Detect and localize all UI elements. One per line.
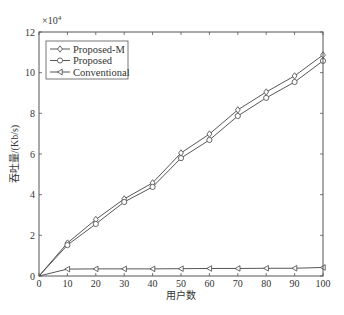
y-axis-label: 吞吐量/(Kb/s)	[9, 125, 21, 183]
x-tick-label: 50	[176, 278, 186, 289]
circle-marker-icon	[292, 79, 297, 84]
x-tick-label: 0	[37, 278, 42, 289]
y-tick-label: 12	[25, 27, 35, 38]
circle-marker-icon	[65, 242, 70, 247]
y-tick-labels: 024681012	[25, 27, 35, 282]
circle-legend-icon	[57, 58, 62, 63]
circle-marker-icon	[122, 199, 127, 204]
y-tick-label: 10	[25, 67, 35, 78]
x-tick-label: 10	[62, 278, 72, 289]
legend-label: Conventional	[73, 67, 130, 78]
x-tick-label: 40	[148, 278, 158, 289]
y-scale-annotation: ×104	[42, 14, 62, 26]
y-tick-label: 8	[30, 108, 35, 119]
circle-marker-icon	[235, 113, 240, 118]
legend-label: Proposed	[73, 55, 113, 66]
throughput-line-chart: 0102030405060708090100 024681012 ×104 用户…	[0, 0, 344, 315]
y-tick-label: 0	[30, 271, 35, 282]
x-tick-label: 100	[316, 278, 331, 289]
x-tick-label: 30	[119, 278, 129, 289]
circle-marker-icon	[178, 155, 183, 160]
x-tick-label: 70	[233, 278, 243, 289]
x-tick-labels: 0102030405060708090100	[37, 278, 331, 289]
y-tick-label: 6	[30, 149, 35, 160]
x-tick-label: 90	[290, 278, 300, 289]
legend: Proposed-MProposedConventional	[46, 41, 130, 79]
circle-marker-icon	[150, 184, 155, 189]
legend-label: Proposed-M	[73, 44, 126, 55]
x-axis-label: 用户数	[166, 289, 196, 301]
x-tick-label: 20	[91, 278, 101, 289]
circle-marker-icon	[207, 137, 212, 142]
y-tick-label: 4	[30, 189, 35, 200]
circle-marker-icon	[264, 95, 269, 100]
x-tick-label: 80	[261, 278, 271, 289]
x-tick-label: 60	[204, 278, 214, 289]
y-tick-label: 2	[30, 230, 35, 241]
circle-marker-icon	[93, 221, 98, 226]
